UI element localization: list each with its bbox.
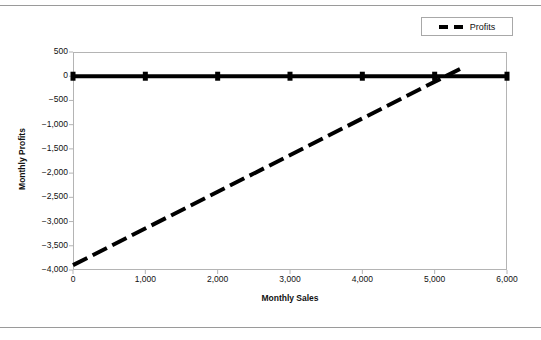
y-tick-label: −2,000 xyxy=(24,168,68,177)
y-tick-label: 500 xyxy=(24,47,68,56)
x-tick-label: 6,000 xyxy=(477,275,537,284)
y-tick-label: −3,000 xyxy=(24,217,68,226)
y-tick-label: −500 xyxy=(24,95,68,104)
y-axis-title: Monthly Profits xyxy=(17,99,27,219)
y-tick-label: 0 xyxy=(24,71,68,80)
y-tick-label: −2,500 xyxy=(24,192,68,201)
x-tick-label: 0 xyxy=(43,275,103,284)
series-marker xyxy=(143,72,148,81)
chart-figure: Profits 5000−500−1,000−1,500−2,000−2,500… xyxy=(0,6,541,326)
series-layer xyxy=(71,69,510,265)
series-marker xyxy=(505,72,510,81)
x-axis-title: Monthly Sales xyxy=(73,293,507,303)
x-tick-label: 5,000 xyxy=(405,275,465,284)
axis-ticks xyxy=(69,52,507,274)
y-tick-label: −3,500 xyxy=(24,241,68,250)
x-axis-tick-labels: 01,0002,0003,0004,0005,0006,000 xyxy=(0,275,541,289)
series-marker xyxy=(360,72,365,81)
series-marker xyxy=(71,72,76,81)
x-tick-label: 1,000 xyxy=(115,275,175,284)
y-tick-label: −4,000 xyxy=(24,265,68,274)
y-tick-label: −1,500 xyxy=(24,144,68,153)
series-marker xyxy=(215,72,220,81)
series-line-profits xyxy=(73,69,460,265)
x-tick-label: 3,000 xyxy=(260,275,320,284)
x-tick-label: 2,000 xyxy=(188,275,248,284)
y-tick-label: −1,000 xyxy=(24,120,68,129)
page-rule-bottom xyxy=(0,327,541,328)
x-tick-label: 4,000 xyxy=(332,275,392,284)
series-marker xyxy=(288,72,293,81)
